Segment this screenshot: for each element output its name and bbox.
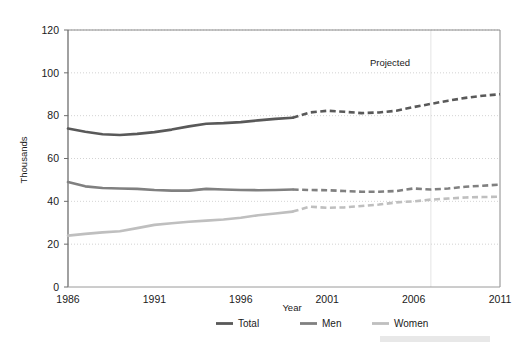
y-tick-label-100: 100: [41, 67, 59, 79]
x-tick-label-2006: 2006: [402, 293, 426, 305]
x-tick-label-1986: 1986: [56, 293, 80, 305]
line-chart: 020406080100120 198619911996200120062011…: [0, 0, 528, 344]
y-tick-label-0: 0: [53, 281, 59, 293]
y-tick-label-120: 120: [41, 24, 59, 36]
chart-legend: TotalMenWomen: [216, 318, 428, 329]
caption-clipped-strip: [380, 336, 490, 342]
legend-label-men: Men: [322, 318, 341, 329]
chart-figure: 020406080100120 198619911996200120062011…: [0, 0, 528, 344]
y-tick-label-40: 40: [47, 195, 59, 207]
cropped-caption: [380, 336, 490, 342]
projected-annotation: Projected: [370, 57, 410, 68]
legend-label-women: Women: [394, 318, 428, 329]
legend-label-total: Total: [238, 318, 259, 329]
x-tick-label-2011: 2011: [489, 293, 512, 305]
y-axis-title: Thousands: [18, 136, 29, 183]
x-tick-label-1996: 1996: [229, 293, 253, 305]
y-tick-label-60: 60: [47, 152, 59, 164]
x-tick-label-2001: 2001: [316, 293, 340, 305]
y-tick-label-80: 80: [47, 109, 59, 121]
y-tick-label-20: 20: [47, 238, 59, 250]
x-tick-label-1991: 1991: [143, 293, 167, 305]
x-axis-title: Year: [282, 302, 301, 313]
